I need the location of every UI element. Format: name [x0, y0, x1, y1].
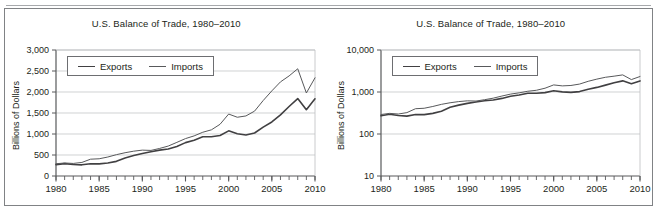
- series-line-exports: [381, 81, 640, 116]
- x-tick-label: 1990: [456, 183, 477, 194]
- chart-panel-linear: U.S. Balance of Trade, 1980–2010 Billion…: [4, 8, 329, 206]
- legend-label-exports: Exports: [425, 61, 457, 72]
- x-tick-label: 2005: [261, 183, 282, 194]
- y-tick-label: 100: [358, 129, 373, 139]
- legend-label-imports: Imports: [496, 61, 528, 72]
- legend-entry-imports: Imports: [474, 61, 528, 72]
- x-tick-label: 1995: [175, 183, 196, 194]
- x-tick-label: 2005: [586, 183, 607, 194]
- top-partial-strip: [0, 0, 659, 7]
- y-tick-label: 0: [44, 171, 49, 181]
- x-tick-label: 1985: [89, 183, 110, 194]
- plot-area-log: 101001,00010,000198019851990199520002005…: [329, 8, 653, 206]
- legend-log: Exports Imports: [392, 56, 539, 76]
- y-tick-label: 1,000: [351, 87, 374, 97]
- x-tick-label: 1985: [413, 183, 434, 194]
- y-tick-label: 2,500: [26, 66, 49, 76]
- legend-label-exports: Exports: [100, 61, 132, 72]
- charts-container: U.S. Balance of Trade, 1980–2010 Billion…: [4, 8, 653, 206]
- series-line-imports: [381, 75, 640, 115]
- x-tick-label: 1980: [370, 183, 391, 194]
- top-rule: [6, 5, 651, 6]
- y-tick-label: 10: [363, 171, 373, 181]
- x-tick-label: 1990: [132, 183, 153, 194]
- legend-line-imports-icon: [474, 66, 491, 67]
- legend-entry-imports: Imports: [149, 61, 203, 72]
- y-tick-label: 500: [34, 150, 49, 160]
- legend-line-exports-icon: [78, 66, 95, 67]
- legend-line-exports-icon: [403, 66, 420, 67]
- legend-entry-exports: Exports: [78, 61, 132, 72]
- series-line-imports: [56, 69, 315, 164]
- legend-line-imports-icon: [149, 66, 166, 67]
- y-tick-label: 2,000: [26, 87, 49, 97]
- plot-area-linear: 05001,0001,5002,0002,5003,00019801985199…: [4, 8, 328, 206]
- y-tick-label: 3,000: [26, 45, 49, 55]
- y-tick-label: 10,000: [346, 45, 374, 55]
- y-tick-label: 1,500: [26, 108, 49, 118]
- legend-entry-exports: Exports: [403, 61, 457, 72]
- x-tick-label: 2000: [543, 183, 564, 194]
- y-tick-label: 1,000: [26, 129, 49, 139]
- x-tick-label: 1980: [45, 183, 66, 194]
- x-tick-label: 2000: [218, 183, 239, 194]
- x-tick-label: 2010: [629, 183, 650, 194]
- legend-linear: Exports Imports: [67, 56, 214, 76]
- chart-panel-log: U.S. Balance of Trade, 1980–2010 Billion…: [329, 8, 654, 206]
- x-tick-label: 1995: [499, 183, 520, 194]
- legend-label-imports: Imports: [171, 61, 203, 72]
- x-tick-label: 2010: [304, 183, 325, 194]
